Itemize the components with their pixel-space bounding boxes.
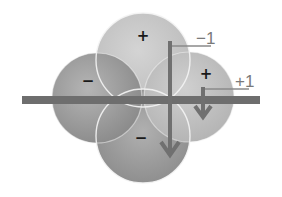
label-minus-one: −1 xyxy=(196,29,215,48)
sign-right: + xyxy=(200,65,213,83)
label-plus-one: +1 xyxy=(235,72,254,91)
axis-bar xyxy=(22,96,260,104)
sign-left: − xyxy=(82,72,95,90)
sign-top: + xyxy=(137,27,150,45)
orbital-diagram: + − + − −1 +1 xyxy=(0,0,282,197)
sign-bottom: − xyxy=(135,129,148,147)
